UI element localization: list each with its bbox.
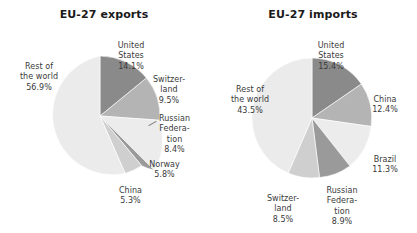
pie-label-value: 11.3%	[361, 165, 409, 176]
pie-label-name: Russian Federa- tion	[159, 114, 190, 144]
pie-label-name: Brazil	[374, 155, 397, 164]
pie-label-brazil: Brazil 11.3%	[361, 144, 409, 186]
pie-label-value: 8.5%	[257, 215, 309, 226]
pie-label-china: China 5.3%	[108, 175, 153, 217]
pie-label-name: United States	[118, 41, 145, 61]
pie-label-value: 43.5%	[221, 106, 279, 117]
pie-label-value: 5.3%	[108, 196, 153, 207]
pie-label-value: 15.4%	[305, 62, 357, 73]
chart-panel-imports: EU-27 imports United States 15.4% China …	[209, 0, 417, 233]
pie-label-united-states: United States 15.4%	[305, 30, 357, 83]
pie-label-name: Russian Federa- tion	[326, 186, 357, 216]
chart-panel-exports: EU-27 exports United States 14.1% Switze…	[0, 0, 208, 233]
pie-label-switzerland: Switzer- land 8.5%	[257, 183, 309, 233]
pie-label-name: United States	[318, 41, 345, 61]
pie-label-value: 12.4%	[361, 105, 409, 116]
pie-label-name: Rest of the world	[231, 85, 269, 105]
pie-label-value: 8.9%	[319, 217, 365, 228]
pie-label-name: Rest of the world	[20, 62, 58, 82]
pie-label-name: China	[119, 186, 142, 195]
pie-label-value: 56.9%	[8, 83, 70, 94]
pie-label-name: Norway	[149, 160, 180, 169]
pie-label-rest-of-the-world: Rest of the world 43.5%	[221, 74, 279, 127]
pie-label-name: China	[373, 95, 396, 104]
pie-label-name: Switzer- land	[153, 75, 185, 95]
pie-label-china: China 12.4%	[361, 84, 409, 126]
pie-label-russian-federation: Russian Federa- tion 8.9%	[319, 175, 365, 233]
chart-title-exports: EU-27 exports	[0, 8, 208, 21]
pie-label-rest-of-the-world: Rest of the world 56.9%	[8, 51, 70, 104]
pie-label-name: Switzer- land	[267, 194, 299, 214]
chart-title-imports: EU-27 imports	[209, 8, 417, 21]
